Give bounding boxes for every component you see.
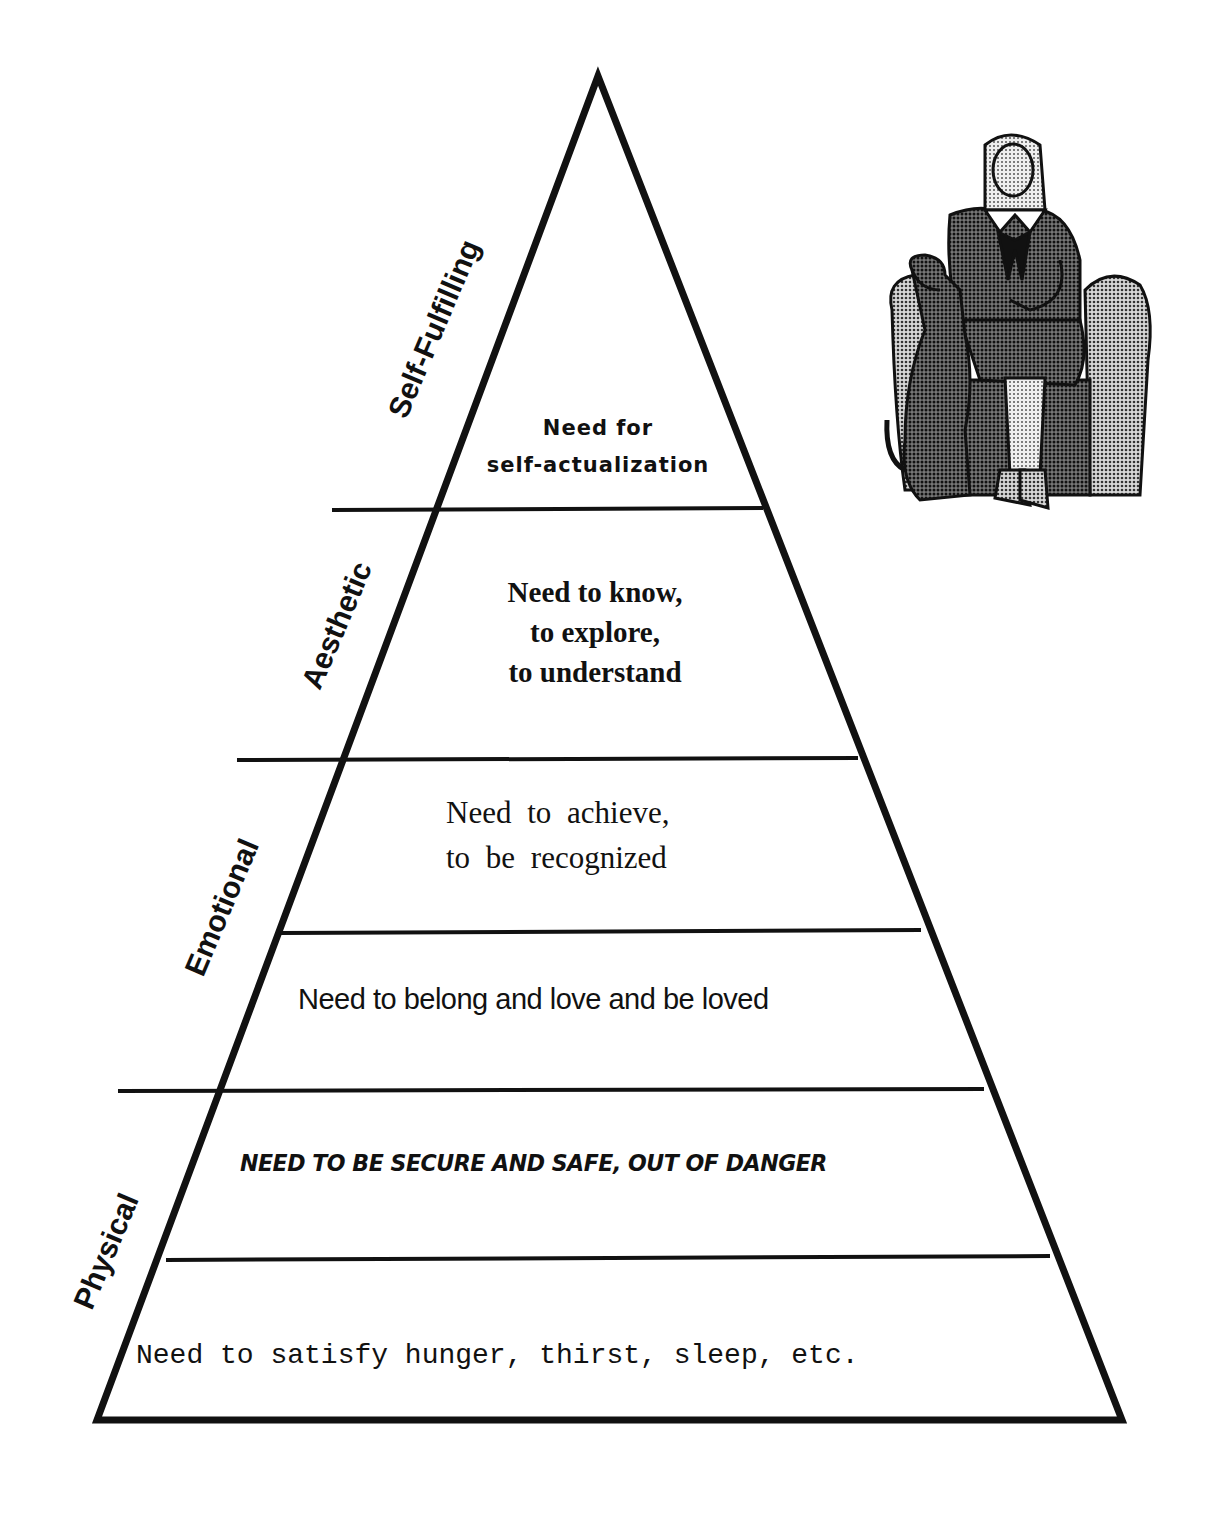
divider-line bbox=[118, 1089, 984, 1091]
tier-belonging: Need to belong and love and be loved bbox=[298, 983, 769, 1016]
divider-line bbox=[166, 1256, 1050, 1260]
tier-text-line: Need for bbox=[448, 410, 748, 447]
tier-physiological: Need to satisfy hunger, thirst, sleep, e… bbox=[136, 1340, 859, 1371]
tier-text-line: to understand bbox=[440, 652, 750, 692]
tier-text-line: to explore, bbox=[440, 612, 750, 652]
woman-with-dog-illustration bbox=[887, 135, 1150, 508]
tier-self-actualization: Need for self-actualization bbox=[448, 410, 748, 484]
pyramid-diagram: Self-Fulfilling Aesthetic Emotional Phys… bbox=[0, 0, 1211, 1526]
tier-knowledge: Need to know, to explore, to understand bbox=[440, 572, 750, 692]
tier-text-line: Need to achieve, bbox=[446, 790, 766, 835]
tier-text-line: to be recognized bbox=[446, 835, 766, 880]
divider-line bbox=[332, 508, 763, 510]
tier-text-line: self-actualization bbox=[448, 447, 748, 484]
pyramid-shape bbox=[0, 0, 1211, 1526]
tier-text-line: Need to know, bbox=[440, 572, 750, 612]
divider-line bbox=[281, 930, 921, 933]
tier-esteem: Need to achieve, to be recognized bbox=[446, 790, 766, 880]
tier-safety: NEED TO BE SECURE AND SAFE, OUT OF DANGE… bbox=[240, 1150, 827, 1176]
divider-line bbox=[237, 758, 858, 760]
